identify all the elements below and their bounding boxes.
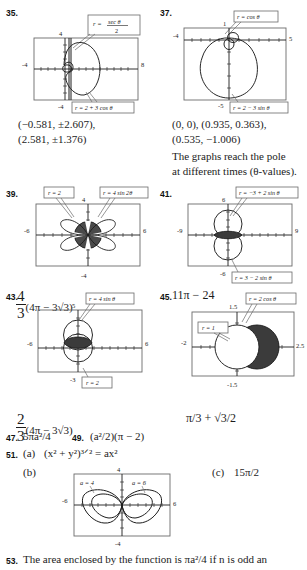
svg-text:r = cos θ: r = cos θ	[237, 13, 260, 20]
svg-text:-6: -6	[220, 270, 226, 277]
svg-text:sec θ: sec θ	[108, 18, 121, 25]
answer-37-line1: (0, 0), (0.935, 0.363),	[172, 118, 266, 130]
svg-text:r = 2 cos θ: r = 2 cos θ	[249, 295, 276, 302]
problem-number-41: 41.	[160, 189, 172, 199]
svg-text:-6: -6	[27, 340, 33, 347]
svg-text:-4: -4	[58, 103, 64, 110]
svg-text:4: 4	[59, 30, 63, 37]
svg-text:-4: -4	[81, 272, 87, 279]
svg-text:r = 1: r = 1	[202, 324, 215, 331]
problem-number-49: 49.	[72, 433, 84, 443]
svg-text:5: 5	[289, 35, 292, 42]
svg-text:-3: -3	[70, 376, 75, 383]
svg-text:4: 4	[82, 196, 86, 203]
svg-text:-1.5: -1.5	[227, 381, 237, 388]
answer-51c-label: (c)	[212, 466, 224, 478]
svg-text:6: 6	[222, 196, 226, 203]
svg-text:4: 4	[117, 466, 121, 473]
answer-51c-expr: 15π/2	[234, 466, 259, 478]
problem-number-51: 51.	[6, 450, 18, 460]
svg-text:1: 1	[223, 20, 226, 27]
answer-37-line4: at different times (θ-values).	[172, 165, 297, 177]
svg-text:-6: -6	[62, 497, 68, 504]
svg-text:2: 2	[115, 27, 118, 34]
svg-text:-4: -4	[22, 61, 28, 68]
svg-text:6: 6	[173, 500, 177, 507]
graph-45: r = 2 cos θ r = 1	[180, 292, 306, 394]
problem-number-45: 45.	[160, 292, 172, 302]
problem-number-37: 37.	[160, 8, 172, 18]
svg-text:8: 8	[141, 61, 144, 68]
graph-41: r = −3 + 2 sin θ	[176, 186, 306, 286]
svg-text:r =: r =	[93, 20, 102, 27]
problem-number-47: 47.	[6, 433, 18, 443]
svg-text:-6: -6	[24, 227, 30, 234]
svg-text:a = 6: a = 6	[132, 479, 147, 486]
answer-37-line2: (0.535, −1.006)	[172, 133, 241, 145]
svg-text:-9: -9	[177, 227, 182, 234]
answer-43-numerator: 2	[16, 411, 26, 428]
answer-key-page: 35. r = sec θ 2	[0, 0, 307, 570]
graph-39: r = 2 r = 4 sin 2θ	[22, 186, 156, 284]
problem-number-53: 53.	[6, 556, 18, 566]
answer-51a-label: (a)	[23, 447, 35, 459]
svg-text:r = 3 − 2 sin θ: r = 3 − 2 sin θ	[235, 274, 272, 281]
problem-number-43: 43.	[6, 292, 18, 302]
svg-text:r = 4 sin θ: r = 4 sin θ	[89, 295, 115, 302]
graph-37: r = cos θ	[172, 10, 306, 118]
graph-43: r = 4 sin θ	[26, 292, 154, 396]
answer-45-text: π/3 + √3/2	[186, 411, 236, 425]
svg-text:5: 5	[72, 302, 75, 309]
svg-text:a = 4: a = 4	[80, 479, 95, 486]
svg-text:r = 4 sin 2θ: r = 4 sin 2θ	[103, 189, 132, 196]
answer-39-denominator: 3	[16, 305, 26, 321]
problem-number-39: 39.	[6, 189, 18, 199]
answer-45: π/3 + √3/2	[186, 411, 236, 426]
svg-text:-4: -4	[115, 540, 121, 547]
svg-text:r = 2: r = 2	[86, 379, 99, 386]
answer-51a-expr: (x² + y²)³ᐟ² = ax²	[44, 447, 118, 460]
graph-35: r = sec θ 2	[20, 14, 156, 114]
graph-51b: a = 4 a = 6 -6 6 4 -4	[58, 462, 186, 554]
svg-text:r = 2 + 3 cos θ: r = 2 + 3 cos θ	[75, 104, 113, 111]
svg-text:6: 6	[145, 340, 149, 347]
answer-35-line2: (2.581, ±1.376)	[18, 133, 86, 145]
answer-51b-label: (b)	[23, 466, 36, 478]
svg-text:r = 2: r = 2	[48, 189, 61, 196]
problem-number-35: 35.	[6, 8, 18, 18]
svg-text:r = −3 + 2 sin θ: r = −3 + 2 sin θ	[239, 189, 280, 196]
svg-text:r = 2 − 3 sin θ: r = 2 − 3 sin θ	[233, 104, 270, 111]
svg-text:1.5: 1.5	[229, 303, 237, 310]
svg-text:-5: -5	[218, 102, 223, 109]
svg-text:-4: -4	[173, 32, 179, 39]
answer-35-line1: (−0.581, ±2.607),	[18, 118, 95, 130]
svg-text:9: 9	[295, 227, 298, 234]
answer-47: 5πa²/4	[23, 430, 51, 442]
svg-text:-2: -2	[181, 339, 186, 346]
answer-49: (a²/2)(π − 2)	[90, 430, 144, 442]
svg-text:2.5: 2.5	[296, 342, 304, 349]
answer-53-text: The area enclosed by the function is πa²…	[23, 553, 307, 565]
svg-text:6: 6	[143, 227, 147, 234]
answer-37-line3: The graphs reach the pole	[172, 150, 286, 162]
